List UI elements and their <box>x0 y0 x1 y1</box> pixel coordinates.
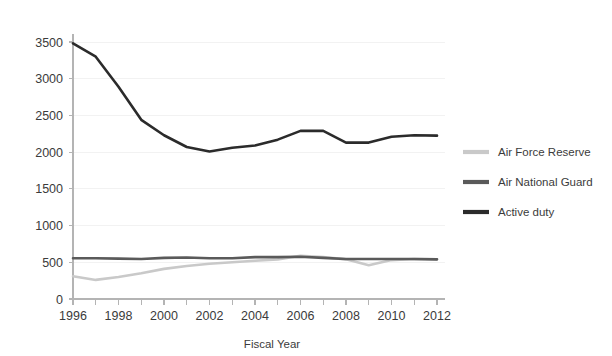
x-tick-label: 2012 <box>423 309 451 323</box>
y-tick-label: 3500 <box>35 36 63 50</box>
x-tick-label: 2006 <box>287 309 315 323</box>
y-tick-label: 2500 <box>35 109 63 123</box>
legend: Air Force ReserveAir National GuardActiv… <box>463 146 593 218</box>
x-tick-labels-group: 199619982000200220042006200820102012 <box>59 309 451 323</box>
x-tick-label: 2000 <box>150 309 178 323</box>
y-tick-label: 0 <box>56 293 63 307</box>
x-tick-label: 2010 <box>378 309 406 323</box>
gridlines-group <box>73 42 445 262</box>
y-tick-label: 2000 <box>35 146 63 160</box>
y-tick-labels-group: 0500100015002000250030003500 <box>35 36 63 307</box>
x-tick-label: 1996 <box>59 309 87 323</box>
x-tick-label: 1998 <box>105 309 133 323</box>
x-tick-label: 2008 <box>332 309 360 323</box>
y-tick-label: 1500 <box>35 182 63 196</box>
legend-label: Active duty <box>498 206 554 218</box>
chart-canvas: 0500100015002000250030003500 19961998200… <box>0 0 612 356</box>
x-axis-group <box>73 299 445 305</box>
x-tick-label: 2004 <box>241 309 269 323</box>
x-tick-label: 2002 <box>196 309 224 323</box>
y-tick-label: 1000 <box>35 219 63 233</box>
series-line-air-national-guard <box>73 257 437 260</box>
legend-label: Air Force Reserve <box>498 146 591 158</box>
series-line-active-duty <box>73 43 437 151</box>
y-tick-label: 500 <box>42 256 63 270</box>
y-tick-label: 3000 <box>35 72 63 86</box>
legend-label: Air National Guard <box>498 176 593 188</box>
line-chart: 0500100015002000250030003500 19961998200… <box>0 0 612 356</box>
x-axis-title: Fiscal Year <box>244 338 300 350</box>
